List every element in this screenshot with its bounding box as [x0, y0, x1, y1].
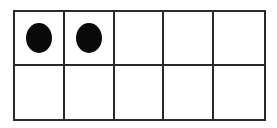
- cell-r1-c4: [164, 12, 214, 66]
- cell-r2-c1: [15, 66, 65, 120]
- cell-r2-c2: [65, 66, 115, 120]
- counter-dot: [76, 23, 102, 53]
- cell-r2-c4: [164, 66, 214, 120]
- counter-dot: [26, 23, 52, 53]
- cell-r1-c2: [65, 12, 115, 66]
- cell-r1-c3: [115, 12, 165, 66]
- cell-r2-c3: [115, 66, 165, 120]
- cell-r1-c5: [214, 12, 264, 66]
- cell-r1-c1: [15, 12, 65, 66]
- ten-frame: [13, 10, 266, 121]
- cell-r2-c5: [214, 66, 264, 120]
